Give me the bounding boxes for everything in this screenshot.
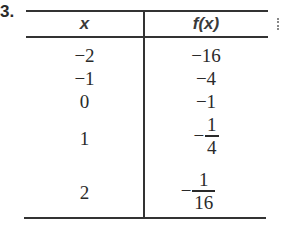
header-fx: f(x) — [145, 14, 267, 34]
fraction-numerator: 1 — [197, 170, 211, 189]
cell-fx-row-3: −1 — [145, 92, 267, 112]
fraction: 1 16 — [192, 170, 215, 212]
header-x: x — [26, 14, 143, 34]
table-bottom-rule — [24, 217, 266, 219]
fraction-denominator: 16 — [192, 193, 215, 212]
cell-fx-row-1: −16 — [145, 46, 267, 66]
margin-mark — [277, 18, 281, 30]
table-top-rule — [26, 10, 268, 12]
cell-fx-row-5: − 1 16 — [137, 170, 259, 212]
fraction-sign: − — [193, 126, 204, 146]
cell-x-row-5: 2 — [26, 183, 143, 203]
fraction-numerator: 1 — [205, 115, 219, 134]
cell-x-row-2: −1 — [26, 69, 143, 89]
cell-fx-row-4: − 1 4 — [145, 115, 267, 157]
fraction-denominator: 4 — [205, 138, 219, 157]
fraction-sign: − — [181, 181, 192, 201]
fraction: 1 4 — [205, 115, 219, 157]
table-header-rule — [26, 36, 268, 38]
cell-x-row-3: 0 — [26, 92, 143, 112]
problem-number: 3. — [0, 2, 14, 22]
cell-x-row-4: 1 — [26, 129, 143, 149]
cell-fx-row-2: −4 — [145, 69, 267, 89]
cell-x-row-1: −2 — [26, 46, 143, 66]
